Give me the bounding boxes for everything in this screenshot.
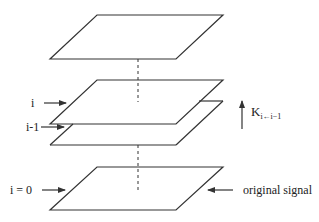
label-level-0: i = 0 [10, 183, 32, 197]
label-level-i-minus-1: i-1 [26, 120, 39, 134]
plane-level-i [50, 80, 223, 124]
label-original-signal: original signal [243, 183, 313, 197]
kernel-subscript: i←i−1 [260, 112, 281, 121]
plane-level-0 [50, 167, 223, 210]
pyramid-diagram: i i-1 i = 0 original signal Ki←i−1 [0, 0, 319, 222]
label-level-i: i [31, 96, 35, 110]
plane-top [50, 15, 223, 59]
label-kernel: Ki←i−1 [251, 104, 281, 121]
